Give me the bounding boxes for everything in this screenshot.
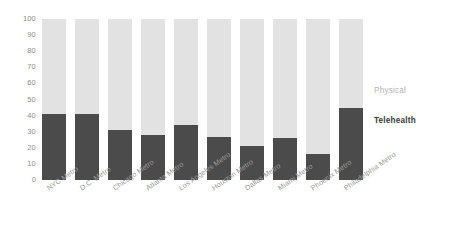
bar-stack[interactable] xyxy=(240,19,264,180)
bar-stack[interactable] xyxy=(42,19,66,180)
bar-stack[interactable] xyxy=(339,19,363,180)
bar-segment-telehealth[interactable] xyxy=(75,114,99,180)
series-label-telehealth: Telehealth xyxy=(374,116,416,125)
y-axis-tick: 10 xyxy=(2,160,36,168)
y-axis-tick: 20 xyxy=(2,144,36,152)
chart-container: 1009080706050403020100 NYC MetroD.C. Met… xyxy=(0,0,453,251)
bar-segment-telehealth[interactable] xyxy=(141,135,165,180)
bar-stack[interactable] xyxy=(207,19,231,180)
bar-segment-physical[interactable] xyxy=(339,19,363,180)
plot-area xyxy=(40,19,370,180)
bar-stack[interactable] xyxy=(174,19,198,180)
bar-segment-physical[interactable] xyxy=(240,19,264,180)
bar-segment-physical[interactable] xyxy=(42,19,66,180)
bar-stack[interactable] xyxy=(306,19,330,180)
bar-segment-physical[interactable] xyxy=(174,19,198,180)
y-axis-tick: 0 xyxy=(2,176,36,184)
bar-segment-telehealth[interactable] xyxy=(207,137,231,180)
y-axis-tick: 90 xyxy=(2,31,36,39)
y-axis-tick: 100 xyxy=(2,15,36,23)
y-axis-tick: 50 xyxy=(2,96,36,104)
y-axis-tick: 60 xyxy=(2,79,36,87)
y-axis-tick: 70 xyxy=(2,63,36,71)
y-axis-tick: 30 xyxy=(2,128,36,136)
bar-stack[interactable] xyxy=(273,19,297,180)
bar-segment-physical[interactable] xyxy=(108,19,132,180)
bar-segment-telehealth[interactable] xyxy=(42,114,66,180)
bar-segment-physical[interactable] xyxy=(141,19,165,180)
y-axis-tick: 40 xyxy=(2,112,36,120)
bar-segment-physical[interactable] xyxy=(306,19,330,180)
bar-segment-physical[interactable] xyxy=(207,19,231,180)
bar-stack[interactable] xyxy=(141,19,165,180)
bar-stack[interactable] xyxy=(108,19,132,180)
y-axis: 1009080706050403020100 xyxy=(0,0,40,251)
bar-segment-telehealth[interactable] xyxy=(174,125,198,180)
bar-segment-physical[interactable] xyxy=(75,19,99,180)
bar-segment-physical[interactable] xyxy=(273,19,297,180)
y-axis-tick: 80 xyxy=(2,47,36,55)
bar-segment-telehealth[interactable] xyxy=(273,138,297,180)
bar-stack[interactable] xyxy=(75,19,99,180)
bar-segment-telehealth[interactable] xyxy=(306,154,330,180)
bar-segment-telehealth[interactable] xyxy=(240,146,264,180)
bar-segment-telehealth[interactable] xyxy=(108,130,132,180)
bar-segment-telehealth[interactable] xyxy=(339,108,363,180)
series-label-physical: Physical xyxy=(374,86,406,95)
